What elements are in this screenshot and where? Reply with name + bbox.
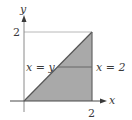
region-diagram: y 2 x = y x = 2 x 2 xyxy=(0,0,132,120)
vertical-line-label: x = 2 xyxy=(96,61,125,74)
y-axis-arrow-icon xyxy=(22,15,27,22)
x-tick-label: 2 xyxy=(88,107,95,120)
diagonal-line-label: x = y xyxy=(26,61,55,74)
x-axis-arrow-icon xyxy=(100,99,107,104)
y-axis-label: y xyxy=(19,3,27,16)
x-axis-label: x xyxy=(109,94,116,107)
y-tick-label: 2 xyxy=(13,26,20,39)
